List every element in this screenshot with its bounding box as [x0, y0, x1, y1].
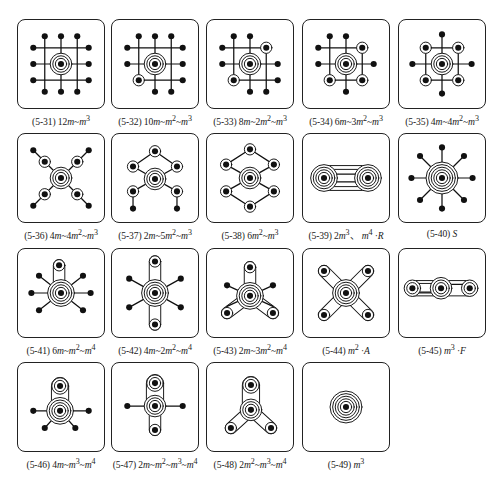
diagram-box [17, 19, 105, 109]
figure-5-37: (5-37) 2m~5m2~m3 [111, 133, 201, 223]
diagram-5-42-icon [112, 249, 198, 337]
diagram-5-44-icon [303, 249, 389, 337]
diagram-box [111, 19, 199, 109]
figure-caption: (5-35) 4m~4m2~m3 [386, 114, 498, 127]
diagram-box [398, 133, 486, 223]
figure-5-43: (5-43) 2m~3m2~m4 [206, 248, 296, 338]
diagram-5-38-icon [207, 134, 293, 222]
diagram-box [206, 19, 294, 109]
diagram-box [206, 248, 294, 338]
diagram-5-33-icon [207, 20, 293, 108]
diagram-5-37-icon [112, 134, 198, 222]
diagram-5-41-icon [18, 249, 104, 337]
figure-5-33: (5-33) 8m~2m2~m3 [206, 19, 296, 109]
figure-caption: (5-49) m3 [290, 457, 402, 470]
figure-5-40: (5-40) S [398, 133, 488, 223]
diagram-box [206, 362, 294, 452]
figure-5-49: (5-49) m3 [302, 362, 392, 452]
diagram-box [398, 19, 486, 109]
figure-5-35: (5-35) 4m~4m2~m3 [398, 19, 488, 109]
diagram-box [302, 248, 390, 338]
figure-caption: (5-40) S [386, 228, 498, 239]
diagram-box [17, 133, 105, 223]
figure-5-41: (5-41) 6m~m2~m4 [17, 248, 107, 338]
figure-5-42: (5-42) 4m~2m2~m4 [111, 248, 201, 338]
diagram-5-47-icon [112, 363, 198, 451]
figure-5-31: (5-31) 12m~m3 [17, 19, 107, 109]
figure-5-44: (5-44) m2 ·A [302, 248, 392, 338]
diagram-box [302, 19, 390, 109]
diagram-5-40-icon [399, 134, 485, 222]
figure-5-39: (5-39) 2m3、 m4 ·R [302, 133, 392, 223]
diagram-box [17, 362, 105, 452]
figure-5-32: (5-32) 10m~m2~m3 [111, 19, 201, 109]
diagram-box [111, 248, 199, 338]
diagram-5-34-icon [303, 20, 389, 108]
diagram-box [302, 133, 390, 223]
diagram-box [302, 362, 390, 452]
figure-5-38: (5-38) 6m2~m3 [206, 133, 296, 223]
figure-5-34: (5-34) 6m~3m2~m3 [302, 19, 392, 109]
figure-5-48: (5-48) 2m2~m3~m4 [206, 362, 296, 452]
diagram-box [111, 362, 199, 452]
figure-5-46: (5-46) 4m~m3~m4 [17, 362, 107, 452]
diagram-box [398, 248, 486, 338]
diagram-5-45-icon [399, 249, 485, 337]
diagram-box [206, 133, 294, 223]
diagram-5-43-icon [207, 249, 293, 337]
figure-caption: (5-45) m3 ·F [386, 343, 498, 356]
diagram-5-31-icon [18, 20, 104, 108]
figure-5-36: (5-36) 4m~4m2~m3 [17, 133, 107, 223]
diagram-5-36-icon [18, 134, 104, 222]
diagram-box [17, 248, 105, 338]
figure-5-47: (5-47) 2m~m2~m3~m4 [111, 362, 201, 452]
diagram-5-35-icon [399, 20, 485, 108]
diagram-5-46-icon [18, 363, 104, 451]
diagram-box [111, 133, 199, 223]
diagram-5-32-icon [112, 20, 198, 108]
diagram-5-39-icon [303, 134, 389, 222]
figure-5-45: (5-45) m3 ·F [398, 248, 488, 338]
diagram-5-48-icon [207, 363, 293, 451]
diagram-5-49-icon [303, 363, 389, 451]
